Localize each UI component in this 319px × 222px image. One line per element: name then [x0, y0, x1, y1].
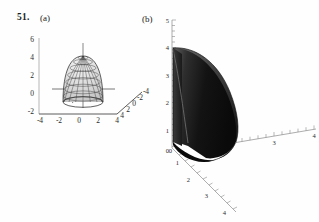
part-label-a: (a) [40, 13, 50, 23]
xb-tick-0: 0 [169, 147, 172, 154]
zb-tick-2: 2 [166, 99, 169, 106]
z-tick-6: 6 [30, 35, 34, 44]
x-tick-0: 0 [77, 116, 81, 125]
y-axis-ticklabels-b: 3 4 [272, 132, 316, 146]
figure-a-svg: 6 4 2 0 -2 -4 -2 0 2 4 [14, 26, 154, 128]
zb-tick-1: 1 [166, 127, 169, 134]
z-tick-neg2: -2 [28, 107, 34, 116]
x-tick-4: 4 [115, 116, 119, 125]
y-axis-group-b: 3 4 [233, 125, 316, 146]
x-tick-neg2: -2 [56, 116, 62, 125]
y-tick-neg4: -4 [143, 87, 149, 96]
z-tick-0: 0 [30, 89, 34, 98]
yb-tick-3: 3 [272, 139, 275, 146]
zb-tick-3: 3 [166, 72, 169, 79]
y-tick-0: 0 [132, 99, 136, 108]
z-tick-2: 2 [30, 71, 34, 80]
z-axis-group: 6 4 2 0 -2 [28, 35, 39, 116]
figure-page: 51. (a) (b) 6 4 2 [0, 0, 319, 222]
x-tick-2: 2 [96, 116, 100, 125]
z-axis-ticklabels: 6 4 2 0 -2 [28, 35, 35, 116]
xb-tick-3: 3 [205, 192, 208, 199]
x-axis-line-b [172, 148, 236, 212]
y-axis-ticks-b [242, 125, 314, 141]
y-tick-2: 2 [126, 105, 130, 114]
x-axis-ticklabels: -4 -2 0 2 4 [37, 116, 119, 125]
xb-tick-4: 4 [223, 209, 227, 216]
z-axis-ticklabels-b: 5 4 3 2 1 0 [166, 17, 170, 155]
z-tick-4: 4 [30, 53, 34, 62]
x-axis-ticklabels-b: 0 1 2 3 4 [169, 147, 227, 216]
y-tick-4: 4 [120, 111, 124, 120]
y-axis-ticklabels: 4 2 0 -2 -4 [120, 87, 149, 120]
xb-tick-2: 2 [187, 176, 190, 183]
yb-tick-4: 4 [312, 132, 316, 139]
zb-tick-4: 4 [166, 44, 170, 51]
zb-tick-5: 5 [166, 17, 169, 24]
figure-a-container: 6 4 2 0 -2 -4 -2 0 2 4 [14, 26, 154, 128]
xb-tick-1: 1 [176, 159, 179, 166]
solid-left-face [173, 48, 182, 146]
exercise-number: 51. [17, 12, 29, 22]
x-axis-group-b: 0 1 2 3 4 [169, 147, 237, 216]
x-tick-neg4: -4 [37, 116, 43, 125]
figure-b-container: 5 4 3 2 1 0 [150, 12, 318, 220]
figure-b-svg: 5 4 3 2 1 0 [150, 12, 318, 220]
